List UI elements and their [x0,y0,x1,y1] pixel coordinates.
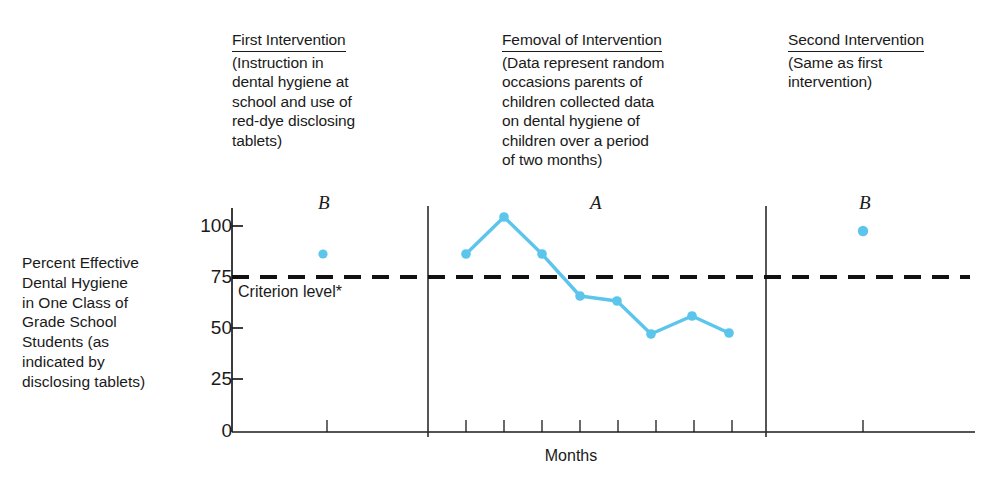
data-point [612,296,622,306]
data-point [687,311,697,321]
data-point [858,226,868,236]
data-point [646,329,656,339]
data-point [318,249,327,258]
data-point [724,328,734,338]
data-point [537,249,547,259]
data-point [575,291,585,301]
plot-area [0,0,997,480]
data-point [499,212,509,222]
figure-abab-dental-hygiene: First Intervention (Instruction in denta… [0,0,997,480]
data-point [461,249,471,259]
